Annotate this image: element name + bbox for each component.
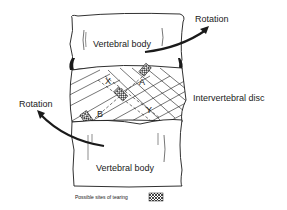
legend-text: Possible sites of tearing xyxy=(75,195,128,200)
crosshatch-swatch-icon xyxy=(149,193,163,201)
point-a-label: A xyxy=(139,78,145,87)
rotation-label-left: Rotation xyxy=(19,100,53,109)
point-x-label: X xyxy=(105,77,111,86)
point-y-label: Y xyxy=(146,106,152,115)
rotation-label-top: Rotation xyxy=(195,15,229,24)
intervertebral-disc xyxy=(60,63,195,124)
vertebral-body-bottom-label: Vertebral body xyxy=(96,164,154,173)
point-b-label: B xyxy=(97,110,103,119)
intervertebral-disc-label: Intervertebral disc xyxy=(193,94,265,103)
vertebral-body-top-label: Vertebral body xyxy=(93,40,151,49)
lower-vertebral-body xyxy=(71,120,182,188)
